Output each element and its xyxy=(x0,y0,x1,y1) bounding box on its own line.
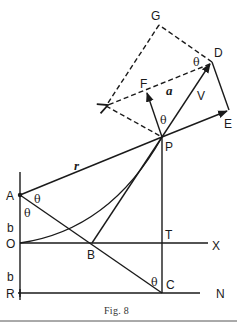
label-b-point: B xyxy=(87,248,95,262)
label-r-point: R xyxy=(6,287,15,301)
label-b-lower: b xyxy=(7,270,14,284)
label-g: G xyxy=(151,9,160,23)
label-p: P xyxy=(165,140,173,154)
de-line xyxy=(212,62,229,110)
acceleration-vector-a xyxy=(108,64,210,105)
figure-8-diagram: G D θ F a V E θ P r A θ θ b O B T X b θ … xyxy=(0,0,237,323)
trajectory-curve xyxy=(20,137,162,243)
bp-line xyxy=(92,137,162,243)
label-theta-p: θ xyxy=(160,114,167,127)
label-a: a xyxy=(166,83,173,98)
ac-line xyxy=(20,195,162,293)
label-o: O xyxy=(6,237,15,251)
label-c: C xyxy=(166,278,175,292)
label-d: D xyxy=(214,46,223,60)
label-e: E xyxy=(224,117,232,131)
label-n: N xyxy=(216,287,225,301)
label-a-point: A xyxy=(6,189,14,203)
label-theta-a2: θ xyxy=(24,207,31,220)
label-f: F xyxy=(140,77,147,91)
dg-dashed-line xyxy=(159,25,212,62)
label-t: T xyxy=(165,228,173,242)
vector-pe xyxy=(162,111,227,137)
label-x: X xyxy=(212,239,220,253)
ap-radius-line xyxy=(20,137,162,195)
g-left-dashed-line xyxy=(106,25,159,106)
label-theta-a1: θ xyxy=(34,193,41,206)
label-v: V xyxy=(197,89,205,103)
point-a-dot xyxy=(18,193,22,197)
figure-caption: Fig. 8 xyxy=(104,305,129,316)
label-theta-c: θ xyxy=(151,276,158,289)
label-theta-d: θ xyxy=(193,56,200,69)
label-b-upper: b xyxy=(7,221,14,235)
